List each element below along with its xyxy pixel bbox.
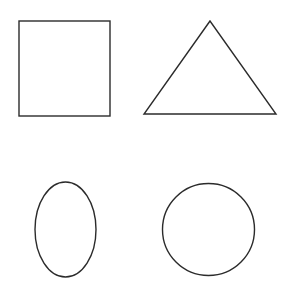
triangle-shape (144, 21, 276, 114)
circle-shape (163, 184, 255, 276)
square-shape (19, 21, 110, 116)
shapes-canvas (0, 0, 297, 289)
ellipse-shape (35, 182, 96, 277)
